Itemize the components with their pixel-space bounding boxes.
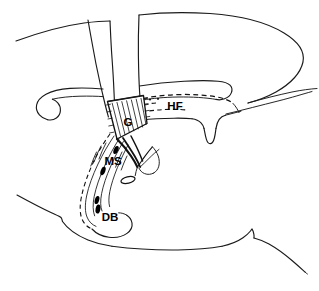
hippocampal-formation-region xyxy=(141,94,241,143)
cell-marker-ms-lower xyxy=(99,166,106,176)
brain-outer-outline xyxy=(16,13,317,274)
hippocampus-dorsal-band xyxy=(140,81,232,101)
figure-root: G HF MS DB xyxy=(0,0,319,291)
label-HF: HF xyxy=(167,100,182,112)
cell-marker-db-lower xyxy=(95,204,101,214)
brain-sagittal-diagram: G HF MS DB xyxy=(0,0,319,291)
cell-marker-db-upper xyxy=(94,195,101,204)
label-G: G xyxy=(124,116,133,128)
septohippocampal-fiber-tracts xyxy=(80,134,159,229)
corpus-callosum-hook xyxy=(36,88,103,120)
label-DB: DB xyxy=(102,211,119,223)
label-MS: MS xyxy=(104,155,122,167)
anterior-commissure-ellipse xyxy=(120,175,136,185)
